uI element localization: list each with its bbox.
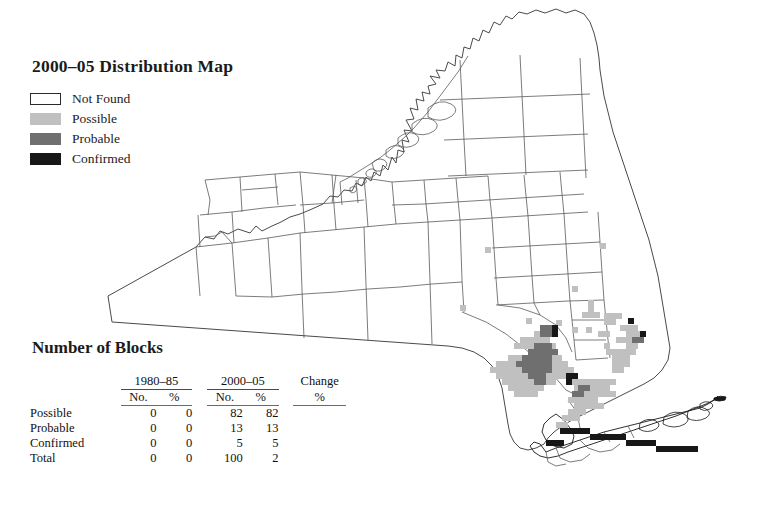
- map-block-possible: [586, 397, 592, 403]
- map-block-possible: [502, 361, 508, 367]
- map-block-possible: [574, 415, 580, 421]
- legend-label-confirmed: Confirmed: [72, 151, 131, 167]
- map-block-probable: [546, 325, 552, 331]
- cell-gap: [279, 421, 294, 436]
- map-block-probable: [528, 373, 534, 379]
- group-header-gap-1: [192, 374, 207, 390]
- map-block-possible: [580, 397, 586, 403]
- map-block-possible: [568, 415, 574, 421]
- map-block-probable: [528, 349, 534, 355]
- map-block-possible: [586, 379, 592, 385]
- legend-item-not-found: Not Found: [30, 90, 290, 108]
- map-block-possible: [514, 355, 520, 361]
- map-block-probable: [534, 367, 540, 373]
- map-block-probable: [584, 385, 590, 391]
- cell-gap: [192, 451, 207, 466]
- map-block-possible: [604, 343, 610, 349]
- cell-total-1980-no: 0: [121, 451, 157, 466]
- map-block-possible: [626, 337, 632, 343]
- map-block-confirmed: [572, 373, 578, 379]
- map-block-confirmed: [608, 434, 614, 440]
- map-block-possible: [568, 367, 574, 373]
- map-block-probable: [540, 331, 546, 337]
- cell-total-2000-pct: 2: [243, 451, 279, 466]
- map-block-possible: [600, 243, 606, 249]
- map-block-confirmed: [674, 446, 680, 452]
- map-block-confirmed: [602, 434, 608, 440]
- map-block-possible: [610, 379, 616, 385]
- map-block-probable: [522, 367, 528, 373]
- map-block-possible: [604, 313, 610, 319]
- row-label-confirmed: Confirmed: [30, 436, 121, 451]
- map-block-possible: [550, 373, 556, 379]
- map-block-confirmed: [668, 446, 674, 452]
- map-block-confirmed: [614, 434, 620, 440]
- sub-header-gap-1: [192, 390, 207, 406]
- cell-possible-1980-pct: 0: [156, 406, 192, 422]
- map-block-possible: [496, 373, 502, 379]
- map-block-probable: [516, 361, 522, 367]
- number-of-blocks-section: Number of Blocks 1980–85 2000–05 Change …: [30, 338, 350, 466]
- map-block-probable: [546, 367, 552, 373]
- map-block-confirmed: [546, 440, 552, 446]
- map-block-possible: [556, 361, 562, 367]
- cell-total-2000-no: 100: [207, 451, 243, 466]
- map-title: 2000–05 Distribution Map: [32, 56, 290, 77]
- map-block-probable: [552, 349, 558, 355]
- group-header-spacer: [30, 374, 121, 390]
- map-block-confirmed: [560, 428, 566, 434]
- map-block-possible: [618, 355, 624, 361]
- map-block-possible: [618, 367, 624, 373]
- map-block-possible: [592, 397, 598, 403]
- map-block-possible: [612, 367, 618, 373]
- map-block-confirmed: [644, 440, 650, 446]
- cell-gap: [279, 406, 294, 422]
- map-block-confirmed: [578, 428, 584, 434]
- legend-swatch-not-found: [30, 93, 61, 105]
- cell-probable-1980-no: 0: [121, 421, 157, 436]
- map-block-possible: [556, 373, 562, 379]
- map-block-possible: [496, 367, 502, 373]
- map-block-possible: [526, 318, 532, 324]
- map-block-confirmed: [680, 446, 686, 452]
- map-block-confirmed: [686, 446, 692, 452]
- map-block-possible: [496, 361, 502, 367]
- map-block-possible: [502, 379, 508, 385]
- cell-total-change-pct: [293, 451, 346, 466]
- map-block-possible: [526, 379, 532, 385]
- group-header-change: Change: [293, 374, 346, 390]
- map-block-possible: [582, 312, 588, 318]
- cell-probable-1980-pct: 0: [156, 421, 192, 436]
- map-block-possible: [508, 367, 514, 373]
- map-block-probable: [572, 391, 578, 397]
- map-block-possible: [586, 403, 592, 409]
- map-block-possible: [580, 409, 586, 415]
- sub-header-1980-pct: %: [156, 390, 192, 406]
- map-block-confirmed: [692, 446, 698, 452]
- map-block-confirmed: [590, 434, 596, 440]
- map-block-possible: [514, 385, 520, 391]
- map-block-possible: [624, 355, 630, 361]
- map-block-probable: [534, 349, 540, 355]
- map-block-probable: [540, 379, 546, 385]
- cell-gap: [192, 421, 207, 436]
- map-block-possible: [620, 337, 626, 343]
- table-sub-header-row: No. % No. % %: [30, 390, 346, 406]
- map-block-possible: [562, 367, 568, 373]
- legend-item-confirmed: Confirmed: [30, 150, 290, 168]
- map-block-possible: [592, 391, 598, 397]
- map-block-probable: [540, 325, 546, 331]
- table-row: Total 0 0 100 2: [30, 451, 346, 466]
- cell-confirmed-2000-pct: 5: [243, 436, 279, 451]
- map-block-possible: [508, 373, 514, 379]
- legend-swatch-probable: [30, 133, 61, 145]
- map-block-possible: [586, 327, 592, 333]
- map-block-possible: [502, 373, 508, 379]
- atlas-page: 2000–05 Distribution Map Not Found Possi…: [0, 0, 765, 506]
- map-block-probable: [546, 331, 552, 337]
- map-block-possible: [594, 312, 600, 318]
- map-block-possible: [520, 343, 526, 349]
- map-block-possible: [532, 385, 538, 391]
- map-legend: 2000–05 Distribution Map Not Found Possi…: [30, 56, 290, 170]
- map-block-possible: [460, 305, 466, 311]
